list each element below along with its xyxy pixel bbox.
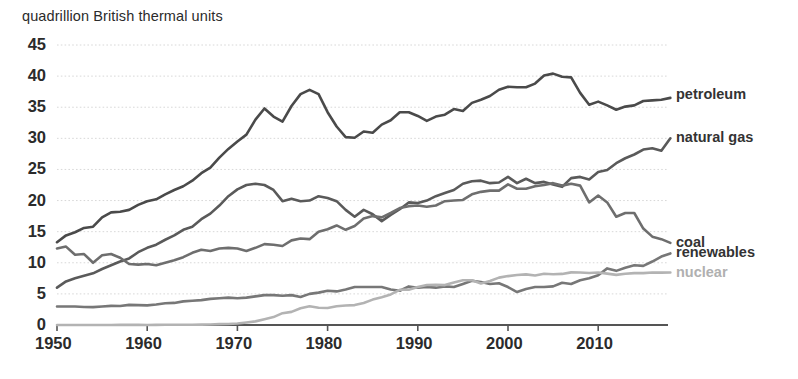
x-tick-label: 1990 (396, 334, 433, 353)
series-line-petroleum (57, 74, 670, 243)
gridlines-group (57, 45, 668, 294)
x-tick-label: 2010 (576, 334, 613, 353)
series-paths-group (57, 74, 670, 325)
y-tick-label: 30 (12, 128, 46, 147)
y-tick-label: 25 (12, 159, 46, 178)
y-tick-label: 35 (12, 97, 46, 116)
series-label-renewables: renewables (676, 244, 755, 260)
series-label-nuclear: nuclear (676, 264, 728, 280)
x-tick-label: 1970 (215, 334, 252, 353)
y-tick-label: 0 (12, 315, 46, 334)
y-tick-label: 10 (12, 253, 46, 272)
y-tick-label: 45 (12, 35, 46, 54)
y-tick-label: 40 (12, 66, 46, 85)
y-tick-label: 15 (12, 222, 46, 241)
x-tick-label: 1980 (306, 334, 343, 353)
energy-consumption-line-chart: quadrillion British thermal units 051015… (0, 0, 798, 379)
series-line-renewables (57, 253, 670, 307)
x-tick-label: 1950 (35, 334, 72, 353)
x-tick-label: 2000 (486, 334, 523, 353)
y-tick-label: 5 (12, 284, 46, 303)
plot-area (0, 0, 798, 379)
series-line-coal (57, 183, 670, 265)
series-label-petroleum: petroleum (676, 86, 746, 102)
series-label-natural-gas: natural gas (676, 129, 753, 145)
y-tick-label: 20 (12, 191, 46, 210)
x-tick-label: 1960 (125, 334, 162, 353)
